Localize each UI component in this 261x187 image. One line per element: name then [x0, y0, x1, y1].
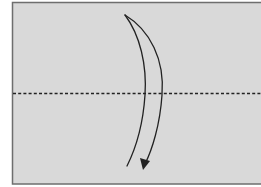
fold-diagram: [0, 0, 261, 187]
